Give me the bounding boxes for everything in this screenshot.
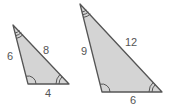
similar-triangles-diagram: 6 8 4 9 12 6 [0,0,169,107]
small-side-hypotenuse-label: 8 [43,44,49,56]
small-side-left-label: 6 [7,50,13,62]
large-side-hypotenuse-label: 12 [125,36,137,48]
small-triangle: 6 8 4 [7,25,69,99]
small-side-base-label: 4 [45,87,51,99]
large-side-left-label: 9 [81,45,87,57]
large-triangle: 9 12 6 [80,4,162,106]
large-side-base-label: 6 [130,94,136,106]
